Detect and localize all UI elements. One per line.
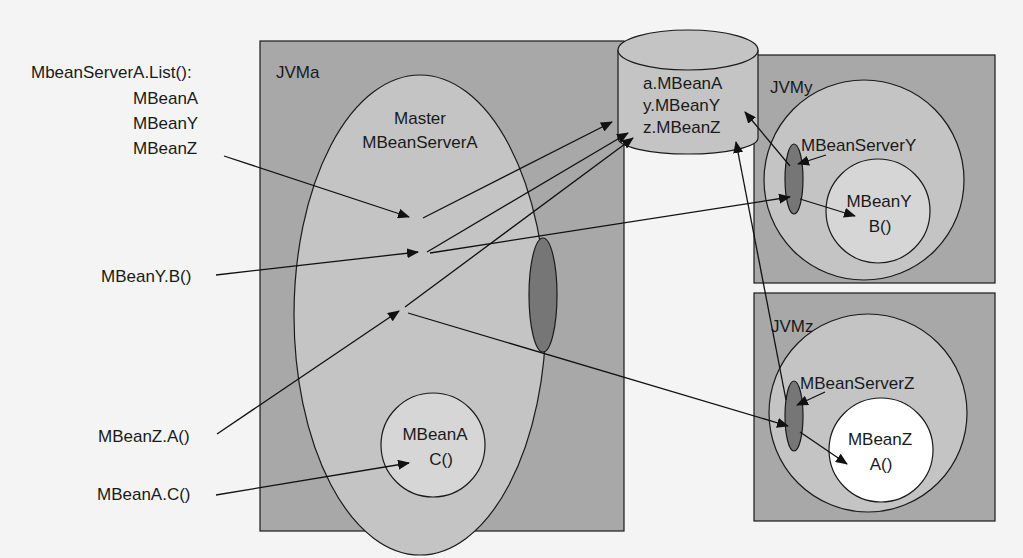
- master-label: Master: [394, 109, 446, 128]
- jvm-z-box: JVMz MBeanServerZ MBeanZ A(): [754, 293, 995, 521]
- mbean-a-name: MBeanA: [402, 425, 468, 444]
- list-item-z: MBeanZ: [133, 139, 197, 158]
- mbean-a-method: C(): [429, 450, 453, 469]
- registry-entry-y: y.MBeanY: [643, 96, 720, 115]
- mbean-z-name: MBeanZ: [848, 430, 912, 449]
- mbean-server-y-label: MBeanServerY: [801, 136, 916, 155]
- jvm-a-connector: [529, 238, 557, 352]
- registry-cylinder: a.MBeanA y.MBeanY z.MBeanZ: [618, 30, 758, 154]
- mbean-z-method: A(): [870, 455, 893, 474]
- jvm-y-box: JVMy MBeanServerY MBeanY B(): [754, 55, 995, 283]
- mbeana-c-call-label: MBeanA.C(): [97, 485, 191, 504]
- mbean-server-z-label: MBeanServerZ: [800, 374, 914, 393]
- mbean-z-circle: [829, 398, 933, 502]
- registry-entry-z: z.MBeanZ: [643, 118, 720, 137]
- mbean-a-circle: MBeanA C(): [381, 393, 485, 497]
- master-server-name: MBeanServerA: [362, 133, 478, 152]
- registry-entry-a: a.MBeanA: [643, 74, 723, 93]
- jvm-a-title: JVMa: [276, 63, 320, 82]
- left-call-labels: MbeanServerA.List(): MBeanA MBeanY MBean…: [31, 63, 199, 504]
- jvm-y-title: JVMy: [770, 78, 813, 97]
- mbean-federation-diagram: JVMa Master MBeanServerA MBeanA C() JVMy…: [0, 0, 1023, 558]
- jvm-z-title: JVMz: [771, 317, 814, 336]
- mbean-y-method: B(): [869, 217, 892, 236]
- mbeanz-a-call-label: MBeanZ.A(): [98, 427, 190, 446]
- jvm-z-connector: [785, 381, 803, 451]
- mbean-y-name: MBeanY: [846, 192, 911, 211]
- list-call-label: MbeanServerA.List():: [31, 63, 192, 82]
- list-item-a: MBeanA: [133, 89, 199, 108]
- jvm-y-connector: [785, 144, 803, 214]
- mbeany-b-call-label: MBeanY.B(): [101, 267, 191, 286]
- mbean-y-circle: [826, 159, 930, 263]
- list-item-y: MBeanY: [133, 114, 198, 133]
